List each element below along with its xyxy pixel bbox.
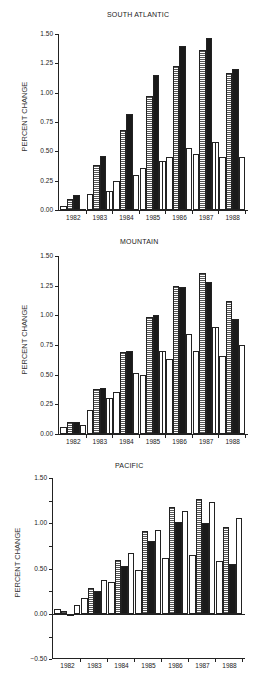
bar-1985-series-2 [142,531,149,614]
x-tick [80,659,81,662]
bar-1983-series-4 [101,580,108,614]
bar-1985-series-1 [135,570,142,614]
x-tick-label: 1982 [56,662,80,669]
x-tick [188,659,189,662]
y-tick [49,569,52,570]
bar-1987-series-2 [196,499,203,614]
y-tick-label: 0.00 [21,610,47,617]
y-minor-tick [49,546,52,547]
bar-1987-series-1 [189,555,196,614]
x-axis [52,614,245,615]
bar-1982-series-1 [54,609,61,614]
chart-pacific: PACIFICPERCENT CHANGE−0.500.000.501.001.… [0,0,262,680]
x-tick [107,659,108,662]
bar-1984-series-3 [121,566,128,614]
x-tick-label: 1984 [110,662,134,669]
x-tick-label: 1988 [218,662,242,669]
y-minor-tick [49,591,52,592]
y-tick-label: 1.00 [21,519,47,526]
x-tick [161,659,162,662]
y-minor-tick [49,637,52,638]
bar-1983-series-3 [94,591,101,614]
bar-1987-series-3 [202,523,209,614]
chart-title: PACIFIC [115,462,144,469]
y-axis [52,478,53,659]
bar-1986-series-3 [175,522,182,614]
bar-1985-series-4 [155,530,162,614]
y-tick [49,478,52,479]
bar-1983-series-1 [81,598,88,614]
bar-1982-series-3 [67,614,74,616]
bar-1988-series-4 [236,518,243,614]
y-tick [49,523,52,524]
x-tick [134,659,135,662]
y-minor-tick [49,501,52,502]
bar-1986-series-1 [162,558,169,614]
bar-1986-series-4 [182,511,189,614]
y-tick [49,614,52,615]
bar-1988-series-1 [216,561,223,614]
bar-1984-series-2 [115,560,122,614]
x-tick-label: 1986 [164,662,188,669]
y-tick-label: 1.50 [21,474,47,481]
x-tick-label: 1987 [191,662,215,669]
x-tick [242,659,243,662]
y-tick-label: 0.50 [21,565,47,572]
bar-1985-series-3 [148,541,155,614]
bar-1984-series-1 [108,582,115,614]
bar-1983-series-2 [88,588,95,614]
y-tick-label: −0.50 [21,655,47,662]
bar-1988-series-3 [229,564,236,614]
x-tick-label: 1985 [137,662,161,669]
bar-1987-series-4 [209,502,216,614]
bar-1988-series-2 [223,527,230,614]
bar-1982-series-2 [61,611,68,614]
y-tick [49,659,52,660]
bar-1982-series-4 [74,605,81,614]
x-tick [215,659,216,662]
bar-1984-series-4 [128,553,135,614]
x-tick-label: 1983 [83,662,107,669]
bar-1986-series-2 [169,507,176,614]
